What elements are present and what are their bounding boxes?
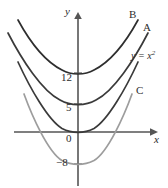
y-axis: [74, 12, 82, 186]
curve-label-base-equation: y = x2: [131, 50, 155, 61]
y-axis-label: y: [65, 6, 70, 17]
equation-exponent: 2: [152, 49, 156, 57]
y-tick-label-5: 5: [66, 102, 72, 113]
equation-text: y = x: [131, 50, 152, 61]
curve-label-C: C: [136, 85, 143, 96]
curve-label-A: A: [143, 22, 151, 33]
y-tick-label-negative-8: −8: [56, 157, 68, 168]
x-axis-label: x: [154, 134, 159, 145]
y-axis-arrowhead-icon: [74, 12, 82, 19]
y-tick-label-12: 12: [61, 72, 72, 83]
parabola-family-figure: B A y = x2 C y x 12 5 0 −8: [0, 0, 168, 188]
curve-label-B: B: [129, 9, 136, 20]
y-tick-label-0: 0: [66, 133, 72, 144]
